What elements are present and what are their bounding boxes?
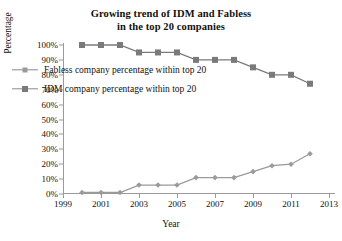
data-point-marker — [307, 151, 313, 157]
y-tick-label: 60% — [42, 100, 59, 110]
chart-container: Growing trend of IDM and Fabless in the … — [0, 0, 342, 241]
data-point-marker — [136, 182, 142, 188]
y-tick-label: 40% — [42, 129, 59, 139]
x-tick-label: 1999 — [54, 199, 72, 209]
x-tick-mark — [139, 194, 140, 198]
data-point-marker — [155, 49, 161, 55]
legend-item-idm: IDM company percentage within top 20 — [12, 79, 206, 98]
x-tick-mark — [253, 194, 254, 198]
data-point-marker — [174, 49, 180, 55]
data-point-marker — [288, 72, 294, 78]
data-point-marker — [193, 175, 199, 181]
data-point-marker — [117, 190, 123, 196]
data-point-marker — [155, 182, 161, 188]
data-point-marker — [269, 72, 275, 78]
x-tick-mark — [63, 194, 64, 198]
data-point-marker — [250, 169, 256, 175]
x-tick-mark — [329, 194, 330, 198]
data-point-marker — [98, 42, 104, 48]
x-axis-label: Year — [0, 219, 342, 229]
data-point-marker — [79, 42, 85, 48]
data-point-marker — [269, 163, 275, 169]
square-marker-icon — [12, 83, 38, 94]
legend-label-idm: IDM company percentage within top 20 — [44, 84, 196, 94]
x-tick-label: 2009 — [244, 199, 262, 209]
data-point-marker — [212, 175, 218, 181]
y-tick-label: 50% — [42, 115, 59, 125]
y-tick-label: 0% — [46, 189, 58, 199]
x-tick-label: 2001 — [92, 199, 110, 209]
y-tick-label: 10% — [42, 174, 59, 184]
data-point-marker — [136, 49, 142, 55]
x-tick-label: 2003 — [130, 199, 148, 209]
data-point-marker — [79, 190, 85, 196]
x-tick-mark — [291, 194, 292, 198]
series-line — [82, 154, 310, 193]
data-point-marker — [117, 42, 123, 48]
chart-title: Growing trend of IDM and Fabless in the … — [0, 8, 342, 33]
data-point-marker — [288, 161, 294, 167]
chart-title-line-2: in the top 20 companies — [0, 21, 342, 34]
x-tick-label: 2013 — [320, 199, 338, 209]
data-point-marker — [250, 64, 256, 70]
x-tick-label: 2005 — [168, 199, 186, 209]
data-point-marker — [307, 81, 313, 87]
chart-legend: Fabless company percentage within top 20… — [12, 60, 206, 98]
legend-item-fabless: Fabless company percentage within top 20 — [12, 60, 206, 79]
x-tick-mark — [177, 194, 178, 198]
diamond-marker-icon — [12, 64, 38, 75]
data-point-marker — [174, 182, 180, 188]
y-tick-label: 30% — [42, 144, 59, 154]
y-tick-label: 20% — [42, 159, 59, 169]
y-tick-label: 100% — [37, 40, 58, 50]
data-point-marker — [231, 175, 237, 181]
data-point-marker — [212, 57, 218, 63]
data-point-marker — [231, 57, 237, 63]
x-tick-label: 2007 — [206, 199, 224, 209]
x-tick-mark — [215, 194, 216, 198]
data-point-marker — [98, 190, 104, 196]
chart-title-line-1: Growing trend of IDM and Fabless — [0, 8, 342, 21]
legend-label-fabless: Fabless company percentage within top 20 — [44, 65, 206, 75]
x-tick-label: 2011 — [282, 199, 300, 209]
